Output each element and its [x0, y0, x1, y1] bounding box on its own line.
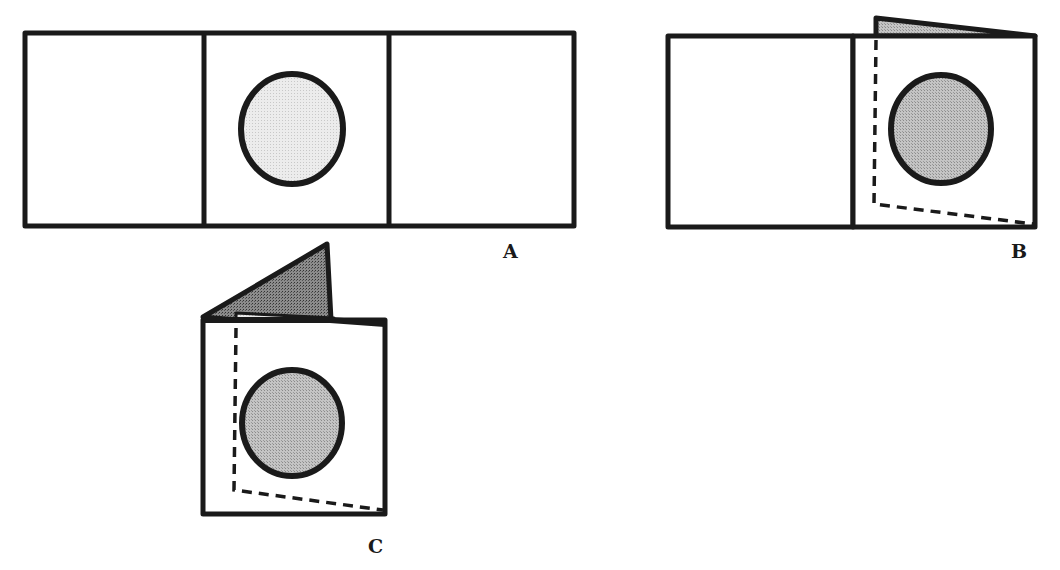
folded-flap-back: [203, 244, 331, 320]
panel-label-b: B: [1011, 242, 1027, 261]
panel-a: [25, 33, 574, 226]
panel-label-a: A: [503, 242, 518, 261]
folded-flap: [876, 18, 1035, 36]
circle-shape: [241, 74, 343, 184]
left-panel: [668, 36, 853, 227]
circle-shape: [242, 370, 342, 476]
panel-c: [203, 244, 385, 514]
circle-shape: [891, 75, 991, 183]
paper-folding-diagram: [0, 0, 1060, 570]
panel-label-c: C: [368, 537, 383, 556]
panel-b: [668, 18, 1035, 227]
